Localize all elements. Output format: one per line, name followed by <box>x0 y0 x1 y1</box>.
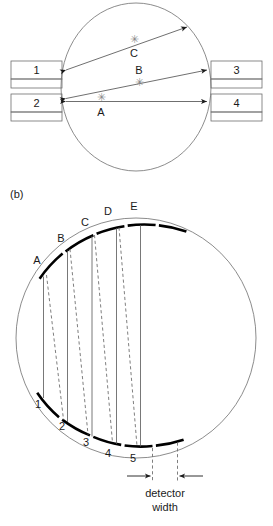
bottom-arc-5[interactable] <box>156 440 184 446</box>
bottom-arc-label-1: 1 <box>35 398 41 410</box>
point-marker-a: ✳ <box>97 91 106 103</box>
top-arc-label-e: E <box>130 200 137 212</box>
top-arc-label-c: C <box>81 216 89 228</box>
phantom-circle-b <box>16 218 256 458</box>
ray-dashed-1 <box>47 275 64 420</box>
detector-label-3: 3 <box>233 64 239 76</box>
ray-dashed-2 <box>70 249 88 435</box>
bottom-arc-label-3: 3 <box>83 436 89 448</box>
panel-a: 1 2 3 4 ✳ A ✳ B ✳ C <box>0 0 273 180</box>
detector-label-1: 1 <box>33 64 39 76</box>
bottom-arc-label-5: 5 <box>130 452 136 464</box>
top-arc-d[interactable] <box>128 224 156 225</box>
bottom-arc-4[interactable] <box>125 446 153 447</box>
detector-strip-1b <box>11 79 62 88</box>
ray-dashed-3 <box>95 235 113 443</box>
bottom-arc-2[interactable] <box>62 420 90 436</box>
top-arc-label-b: B <box>57 232 64 244</box>
detector-strip-4b <box>211 112 262 121</box>
point-label-a: A <box>97 106 105 118</box>
top-arc-c[interactable] <box>97 226 125 234</box>
ray-line-c <box>66 27 187 70</box>
point-label-b: B <box>135 64 142 76</box>
detector-strip-2b <box>11 112 62 121</box>
bottom-arc-3[interactable] <box>93 437 121 445</box>
detector-group-right: 3 4 <box>211 61 262 121</box>
top-arc-label-d: D <box>104 205 112 217</box>
panel-b-label: (b) <box>10 188 23 200</box>
detector-group-left: 1 2 <box>11 61 62 121</box>
point-marker-b: ✳ <box>135 76 144 88</box>
panel-b: (b) A B C D E 1 2 3 4 5 <box>0 180 273 520</box>
top-arc-e[interactable] <box>159 225 187 231</box>
bottom-arc-label-2: 2 <box>59 420 65 432</box>
detector-strip-3b <box>211 79 262 88</box>
top-arc-a[interactable] <box>40 254 63 279</box>
figure-caption <box>0 518 273 526</box>
detector-width-label-line2: width <box>151 501 178 513</box>
figure-root: 1 2 3 4 ✳ A ✳ B ✳ C <box>0 0 273 526</box>
bottom-arc-label-4: 4 <box>105 447 111 459</box>
detector-width-annotation: detector width <box>127 443 203 514</box>
top-arc-label-a: A <box>33 254 41 266</box>
ray-dashed-4 <box>119 228 137 447</box>
detector-width-label-line1: detector <box>145 487 185 499</box>
point-marker-c: ✳ <box>130 33 139 45</box>
detector-label-4: 4 <box>233 97 239 109</box>
point-label-c: C <box>130 47 138 59</box>
detector-label-2: 2 <box>33 97 39 109</box>
